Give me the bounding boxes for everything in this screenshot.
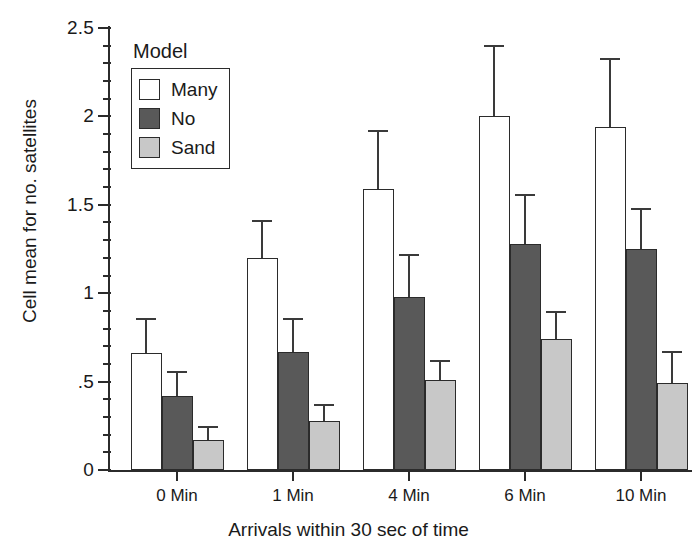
x-axis-line xyxy=(108,470,692,472)
legend-item: Sand xyxy=(139,133,217,162)
bar xyxy=(425,380,456,470)
bar xyxy=(131,353,162,470)
bar xyxy=(595,127,626,470)
x-tick-label: 1 Min xyxy=(233,486,353,506)
error-bar xyxy=(609,60,611,127)
legend-title: Model xyxy=(131,40,230,63)
x-axis-title: Arrivals within 30 sec of time xyxy=(0,519,697,541)
error-bar xyxy=(145,320,147,354)
bar xyxy=(278,352,309,470)
x-tick xyxy=(292,471,294,481)
legend-label: No xyxy=(171,109,195,128)
error-bar-cap xyxy=(136,318,156,320)
chart-figure: 0.511.522.5 0 Min1 Min4 Min6 Min10 Min C… xyxy=(0,0,697,555)
error-bar xyxy=(261,222,263,257)
bar xyxy=(363,189,394,470)
legend-item: Many xyxy=(139,75,217,104)
error-bar-cap xyxy=(484,45,504,47)
error-bar-cap xyxy=(662,351,682,353)
error-bar xyxy=(640,210,642,249)
error-bar-cap xyxy=(631,208,651,210)
error-bar xyxy=(408,256,410,297)
error-bar-cap xyxy=(430,360,450,362)
x-tick xyxy=(408,471,410,481)
legend-label: Many xyxy=(171,80,217,99)
legend: Model ManyNoSand xyxy=(131,40,230,169)
bar xyxy=(626,249,657,470)
x-tick xyxy=(524,471,526,481)
y-tick-label: 0 xyxy=(24,460,94,479)
error-bar-cap xyxy=(368,130,388,132)
error-bar xyxy=(439,362,441,380)
bar xyxy=(479,116,510,470)
x-tick-label: 6 Min xyxy=(465,486,585,506)
x-tick-label: 4 Min xyxy=(349,486,469,506)
error-bar-cap xyxy=(314,404,334,406)
legend-swatch xyxy=(139,137,160,158)
error-bar xyxy=(493,47,495,116)
x-tick xyxy=(640,471,642,481)
error-bar xyxy=(671,353,673,383)
error-bar xyxy=(176,373,178,396)
error-bar-cap xyxy=(283,318,303,320)
bar xyxy=(309,421,340,471)
bar xyxy=(657,383,688,470)
error-bar xyxy=(292,320,294,352)
error-bar-cap xyxy=(546,311,566,313)
error-bar xyxy=(524,196,526,244)
error-bar-cap xyxy=(515,194,535,196)
x-tick-label: 10 Min xyxy=(581,486,697,506)
error-bar xyxy=(323,406,325,420)
error-bar xyxy=(207,428,209,440)
x-tick-label: 0 Min xyxy=(117,486,237,506)
error-bar-cap xyxy=(252,220,272,222)
legend-item: No xyxy=(139,104,217,133)
error-bar-cap xyxy=(198,426,218,428)
bar xyxy=(247,258,278,470)
legend-swatch xyxy=(139,79,160,100)
error-bar xyxy=(555,313,557,340)
x-tick xyxy=(176,471,178,481)
error-bar-cap xyxy=(600,58,620,60)
bar xyxy=(541,339,572,470)
bar xyxy=(394,297,425,470)
bar xyxy=(193,440,224,470)
bar xyxy=(162,396,193,470)
error-bar xyxy=(377,132,379,189)
legend-swatch xyxy=(139,108,160,129)
legend-box: ManyNoSand xyxy=(131,68,230,169)
legend-label: Sand xyxy=(171,138,215,157)
bar xyxy=(510,244,541,470)
y-axis-title: Cell mean for no. satellites xyxy=(19,31,41,391)
error-bar-cap xyxy=(167,371,187,373)
error-bar-cap xyxy=(399,254,419,256)
